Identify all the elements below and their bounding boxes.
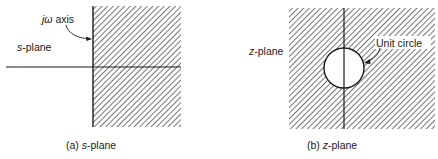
arrowhead-icon — [86, 37, 92, 42]
plane-word: -plane — [87, 139, 116, 151]
s-plane-diagram — [6, 6, 181, 127]
z-plane-label: z-plane — [249, 46, 283, 57]
jw-symbol: jω — [42, 13, 53, 25]
z-plane-diagram — [289, 8, 435, 129]
stability-region-figure: jω axis s-plane (a) s-plane z-plane Unit… — [0, 0, 438, 159]
plane-word: -plane — [22, 41, 51, 53]
plane-word: -plane — [254, 45, 283, 57]
plane-word: -plane — [328, 139, 357, 151]
caption-prefix: (a) — [66, 139, 82, 151]
caption-prefix: (b) — [307, 139, 323, 151]
jw-axis-label: jω axis — [42, 14, 74, 25]
axis-word: axis — [53, 13, 75, 25]
z-plane-caption: (b) z-plane — [307, 140, 357, 151]
unit-circle-label: Unit circle — [376, 38, 422, 49]
s-plane-label: s-plane — [17, 42, 51, 53]
s-plane-caption: (a) s-plane — [66, 140, 116, 151]
